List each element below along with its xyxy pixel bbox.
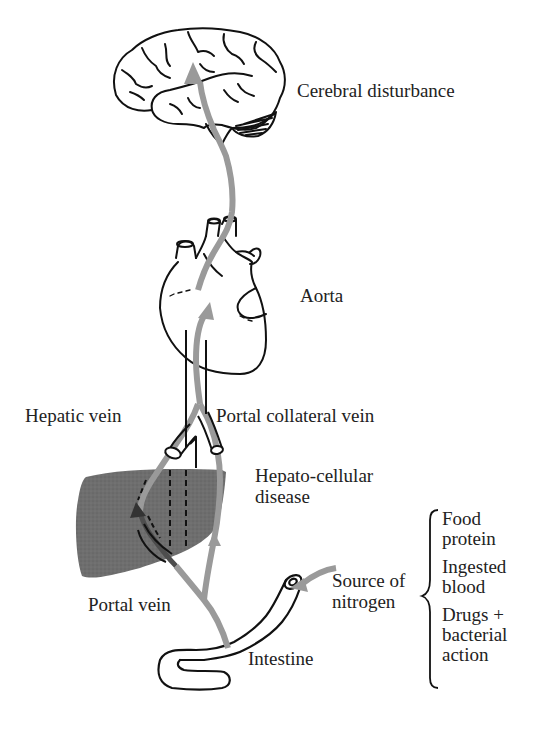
label-source-of-nitrogen: Source of nitrogen <box>332 570 405 612</box>
nitrogen-source-food-protein: Food protein <box>442 509 507 549</box>
label-aorta: Aorta <box>300 285 343 306</box>
nitrogen-flow <box>302 568 336 584</box>
label-hepato-cellular-disease: Hepato-cellular disease <box>255 465 373 507</box>
label-hepatic-vein: Hepatic vein <box>25 405 122 426</box>
label-portal-vein: Portal vein <box>88 594 171 615</box>
curly-brace-icon <box>422 510 438 688</box>
flow-arrows <box>140 82 336 648</box>
intestine-icon <box>159 572 304 689</box>
label-cerebral-disturbance: Cerebral disturbance <box>297 80 455 101</box>
aorta-to-brain-flow <box>198 82 233 290</box>
portal-vein-flow <box>176 566 228 648</box>
diagram-canvas: Cerebral disturbance Aorta Hepatic vein … <box>0 0 549 730</box>
nitrogen-source-ingested-blood: Ingested blood <box>442 557 507 597</box>
vena-cava-flow <box>196 316 204 404</box>
label-portal-collateral-vein: Portal collateral vein <box>216 405 374 426</box>
label-intestine: Intestine <box>248 648 313 669</box>
nitrogen-sources-list: Food protein Ingested blood Drugs + bact… <box>442 509 507 673</box>
heart-icon <box>160 217 266 375</box>
nitrogen-source-drugs-bacterial: Drugs + bacterial action <box>442 605 507 665</box>
